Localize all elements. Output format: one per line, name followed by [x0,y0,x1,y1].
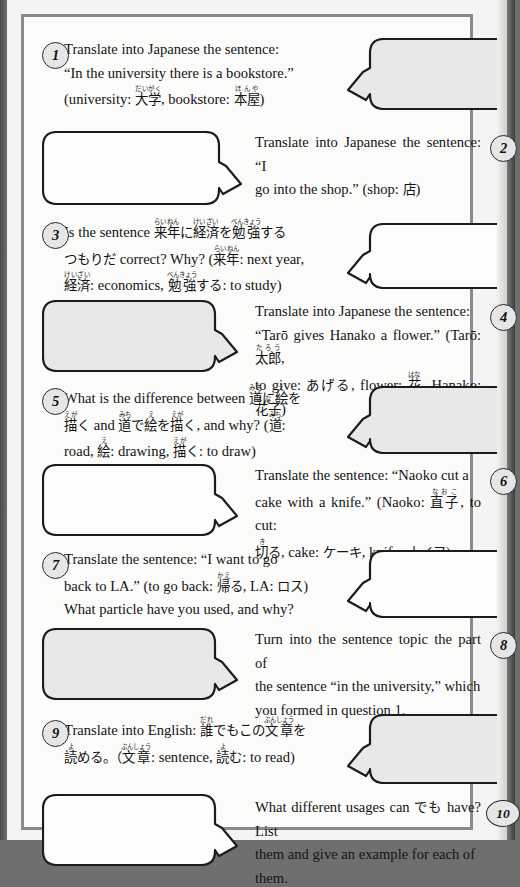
question-text: Translate into Japanese the sentence:“In… [64,38,326,112]
page-gutter-left [0,0,7,840]
question-row: 4Translate into Japanese the sentence:“T… [42,296,443,380]
question-text: Translate into Japanese the sentence: “I… [255,131,481,202]
question-row: 5What is the difference between 道みちに絵えを描… [42,380,443,462]
question-number-badge: 7 [42,552,69,579]
question-number-badge: 5 [42,388,69,415]
answer-bubble[interactable] [42,464,238,536]
question-text: Translate the sentence: “I want to gobac… [64,548,326,622]
question-row: 6Translate the sentence: “Naoko cut acak… [42,462,443,546]
answer-bubble[interactable] [42,794,238,866]
answer-bubble[interactable] [42,300,238,372]
question-number-badge: 2 [490,135,517,162]
question-text: Turn into the sentence topic the part of… [255,628,481,723]
question-number-badge: 6 [490,468,517,495]
question-text: Translate into English: 誰だれでもこの文章ぶんしょうを読… [64,716,326,769]
answer-bubble[interactable] [42,131,242,205]
question-row: 7Translate the sentence: “I want to goba… [42,546,443,626]
question-number-badge: 3 [42,222,69,249]
page-gutter-right [507,0,515,840]
question-number-badge: 4 [490,304,517,331]
answer-bubble[interactable] [347,386,515,454]
question-number-badge: 1 [42,42,69,69]
question-row: 10What different usages can でも have? Lis… [42,792,443,876]
question-row: 1Translate into Japanese the sentence:“I… [42,36,443,120]
question-text: Is the sentence 来年らいねんに経済けいざいを勉強べんきょうするつ… [64,218,326,298]
question-row: 3Is the sentence 来年らいねんに経済けいざいを勉強べんきょうする… [42,214,443,296]
question-number-badge: 8 [490,632,517,659]
question-text: What different usages can でも have? Listt… [255,796,481,887]
questions-container: 1Translate into Japanese the sentence:“I… [42,34,443,814]
answer-bubble[interactable] [42,628,238,700]
printed-frame: 1Translate into Japanese the sentence:“I… [21,14,473,830]
question-number-badge: 10 [486,800,520,827]
question-number-badge: 9 [42,720,69,747]
answer-bubble[interactable] [347,223,515,289]
question-row: 8Turn into the sentence topic the part o… [42,626,443,710]
answer-bubble[interactable] [347,714,515,784]
question-text: What is the difference between 道みちに絵えを描え… [64,384,326,464]
answer-bubble[interactable] [347,38,515,110]
question-row: 2Translate into Japanese the sentence: “… [42,127,443,211]
question-row: 9Translate into English: 誰だれでもこの文章ぶんしょうを… [42,710,443,792]
page-edge-strip [497,0,507,840]
answer-bubble[interactable] [347,550,515,618]
paper-surface: 1Translate into Japanese the sentence:“I… [7,0,497,840]
